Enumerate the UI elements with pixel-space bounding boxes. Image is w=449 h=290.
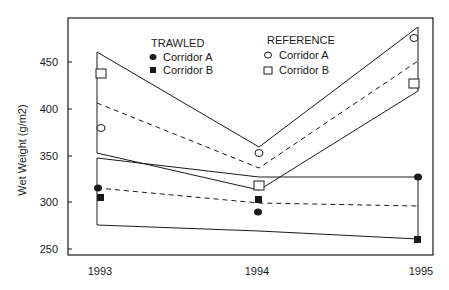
plot-frame [68, 18, 433, 255]
reference-upper-line [97, 27, 418, 147]
series-reference-corridor-a [97, 35, 418, 157]
x-tick-1993: 1993 [88, 265, 112, 277]
legend-trawled-corridor-a: Corridor A [163, 51, 213, 63]
legend-trawled-corridor-b: Corridor B [163, 64, 213, 76]
open-circle-icon [265, 52, 272, 58]
x-tick-1994: 1994 [245, 265, 269, 277]
legend-reference-corridor-b: Corridor B [279, 64, 329, 76]
series-trawled-corridor-b [97, 194, 421, 243]
y-tick-250: 250 [40, 243, 58, 255]
legend: TRAWLED Corridor A Corridor B REFERENCE … [150, 34, 335, 76]
x-tick-1995: 1995 [409, 265, 433, 277]
y-tick-300: 300 [40, 196, 58, 208]
x-axis: 1993 1994 1995 [88, 265, 433, 277]
y-tick-400: 400 [40, 103, 58, 115]
filled-circle-icon [150, 54, 157, 60]
reference-envelope [97, 27, 418, 190]
legend-title-trawled: TRAWLED [151, 37, 204, 49]
legend-title-reference: REFERENCE [267, 34, 335, 46]
open-square-icon [264, 67, 272, 74]
y-axis: 450 400 350 300 250 Wet Weight (g/m2) [16, 56, 72, 255]
filled-square-icon [150, 67, 156, 73]
y-axis-label: Wet Weight (g/m2) [16, 104, 28, 195]
series-trawled-corridor-a [94, 174, 422, 216]
y-tick-350: 350 [40, 150, 58, 162]
series-reference-corridor-b [96, 69, 419, 190]
y-tick-450: 450 [40, 56, 58, 68]
legend-reference-corridor-a: Corridor A [279, 49, 329, 61]
trawled-lower-line [97, 225, 418, 239]
reference-lower-line [97, 91, 418, 190]
chart-canvas: 450 400 350 300 250 Wet Weight (g/m2) 19… [0, 0, 449, 290]
